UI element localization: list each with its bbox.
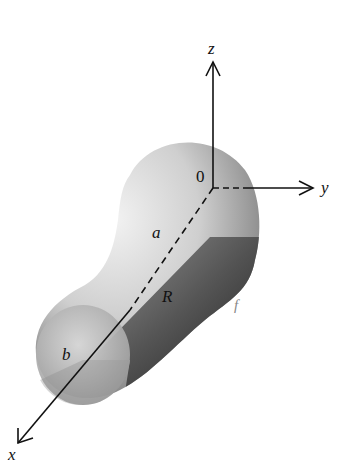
end-cap-disk [36, 305, 130, 405]
z-axis-label: z [208, 40, 215, 57]
solid-diagram [0, 0, 353, 468]
curve-f-label: f [234, 298, 238, 313]
x-axis-label: x [8, 446, 16, 463]
radius-a-label: a [152, 224, 161, 241]
radius-b-label: b [62, 346, 71, 363]
origin-label: 0 [196, 168, 205, 185]
region-R-label: R [162, 288, 172, 305]
y-axis-label: y [321, 179, 329, 196]
